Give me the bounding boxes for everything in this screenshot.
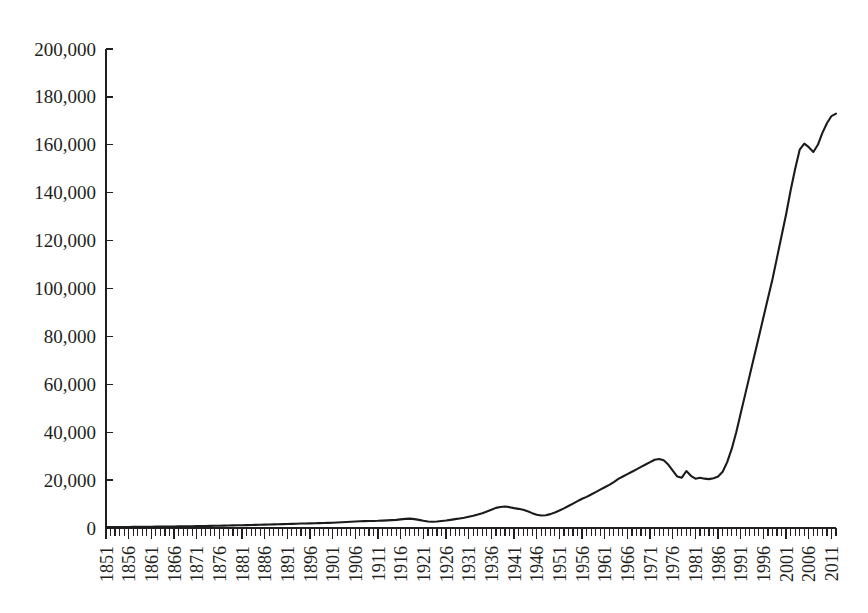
x-axis-tick-label: 1926	[437, 546, 457, 582]
x-axis-tick-label: 1891	[278, 546, 298, 582]
x-axis-tick-label: 2006	[799, 546, 819, 582]
x-axis-tick-label: 1896	[301, 546, 321, 582]
x-axis-tick-label: 1986	[709, 546, 729, 582]
y-axis-tick-label: 80,000	[44, 326, 96, 347]
x-axis-tick-label: 1931	[459, 546, 479, 582]
x-axis-tick-label: 1901	[323, 546, 343, 582]
x-axis-tick-label: 1996	[754, 546, 774, 582]
x-axis-tick-label: 1966	[618, 546, 638, 582]
line-chart: 020,00040,00060,00080,000100,000120,0001…	[0, 0, 868, 613]
x-axis-tick-label: 1881	[233, 546, 253, 582]
x-axis-tick-label: 1916	[391, 546, 411, 582]
x-axis-tick-labels: 1851185618611866187118761881188618911896…	[97, 546, 842, 582]
y-axis-tick-label: 160,000	[34, 134, 96, 155]
x-axis-tick-label: 1856	[119, 546, 139, 582]
y-axis-tick-labels: 020,00040,00060,00080,000100,000120,0001…	[34, 39, 96, 539]
x-axis-tick-label: 1936	[482, 546, 502, 582]
x-axis-tick-label: 1871	[187, 546, 207, 582]
y-axis-tick-label: 40,000	[44, 422, 96, 443]
y-axis-tick-label: 120,000	[34, 230, 96, 251]
y-axis-tick-label: 200,000	[34, 39, 96, 60]
data-series-group	[106, 114, 836, 527]
x-axis-tick-label: 1981	[686, 546, 706, 582]
y-axis-tick-label: 180,000	[34, 86, 96, 107]
x-axis-tick-label: 1851	[97, 546, 117, 582]
x-axis-tick-label: 2001	[777, 546, 797, 582]
y-axis-tick-label: 140,000	[34, 182, 96, 203]
chart-container: 020,00040,00060,00080,000100,000120,0001…	[0, 0, 868, 613]
x-axis-tick-label: 1961	[595, 546, 615, 582]
y-axis-tick-label: 100,000	[34, 278, 96, 299]
x-axis-tick-label: 1911	[369, 546, 389, 581]
x-axis-group	[106, 528, 836, 539]
x-axis-tick-label: 1971	[641, 546, 661, 582]
x-axis-tick-label: 1861	[142, 546, 162, 582]
x-axis-tick-label: 1941	[505, 546, 525, 582]
x-axis-tick-label: 1991	[731, 546, 751, 582]
x-axis-tick-label: 2011	[822, 546, 842, 581]
x-axis-tick-label: 1946	[527, 546, 547, 582]
data-line-series-1	[106, 114, 836, 527]
x-axis-tick-label: 1951	[550, 546, 570, 582]
y-axis-tick-label: 60,000	[44, 374, 96, 395]
y-axis-tick-label: 20,000	[44, 470, 96, 491]
x-axis-tick-label: 1976	[663, 546, 683, 582]
x-axis-tick-label: 1906	[346, 546, 366, 582]
y-axis-tick-label: 0	[87, 518, 97, 539]
x-axis-tick-label: 1956	[573, 546, 593, 582]
x-axis-tick-label: 1921	[414, 546, 434, 582]
y-axis-group	[106, 49, 113, 528]
x-axis-tick-label: 1886	[255, 546, 275, 582]
x-axis-tick-label: 1866	[165, 546, 185, 582]
x-axis-tick-label: 1876	[210, 546, 230, 582]
